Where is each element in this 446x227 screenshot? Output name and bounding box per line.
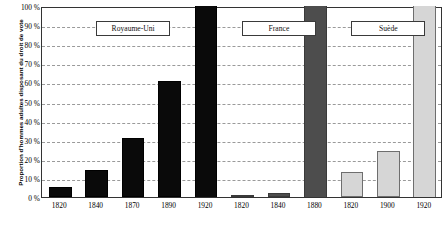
- bar-chart: Proportion d'hommes adultes disposant du…: [0, 0, 446, 227]
- bar: [231, 195, 254, 197]
- x-axis-tick-label: 1920: [198, 201, 213, 210]
- x-axis-tick-labels: 1820184018701890192018201840188018201900…: [41, 199, 442, 219]
- x-axis-tick-label: 1900: [380, 201, 395, 210]
- y-axis-tick-labels: 0 %10 %20 %30 %40 %50 %60 %70 %80 %90 %1…: [0, 0, 40, 227]
- y-axis-tick-label: 70 %: [2, 60, 40, 69]
- y-axis-tick-label: 100 %: [2, 3, 40, 12]
- bar: [49, 187, 72, 197]
- y-axis-tick-label: 10 %: [2, 174, 40, 183]
- x-axis-tick-label: 1880: [307, 201, 322, 210]
- y-axis-tick-label: 30 %: [2, 136, 40, 145]
- group-caption-3: Suède: [351, 21, 425, 36]
- y-axis-tick-label: 50 %: [2, 98, 40, 107]
- group-caption-2: France: [242, 21, 316, 36]
- x-axis-tick-label: 1840: [88, 201, 103, 210]
- y-axis-tick-label: 90 %: [2, 22, 40, 31]
- bar: [377, 151, 400, 197]
- y-axis-tick-label: 40 %: [2, 117, 40, 126]
- x-axis-tick-label: 1920: [416, 201, 431, 210]
- bar: [85, 170, 108, 197]
- x-axis-tick-label: 1820: [52, 201, 67, 210]
- plot-inner: Royaume-UniFranceSuède: [42, 8, 441, 197]
- bar: [268, 193, 291, 197]
- x-axis-tick-label: 1820: [343, 201, 358, 210]
- x-axis-tick-label: 1820: [234, 201, 249, 210]
- y-axis-tick-label: 80 %: [2, 41, 40, 50]
- bar: [195, 6, 218, 197]
- y-axis-tick-label: 20 %: [2, 155, 40, 164]
- bar: [122, 138, 145, 197]
- x-axis-tick-label: 1870: [125, 201, 140, 210]
- bar-series: [42, 8, 441, 197]
- y-axis-tick-label: 60 %: [2, 79, 40, 88]
- x-axis-tick-label: 1890: [161, 201, 176, 210]
- y-axis-tick-label: 0 %: [2, 194, 40, 203]
- plot-area: Royaume-UniFranceSuède: [41, 7, 442, 198]
- x-axis-tick-label: 1840: [271, 201, 286, 210]
- bar: [341, 172, 364, 197]
- bar: [158, 81, 181, 198]
- group-caption-1: Royaume-Uni: [96, 21, 170, 36]
